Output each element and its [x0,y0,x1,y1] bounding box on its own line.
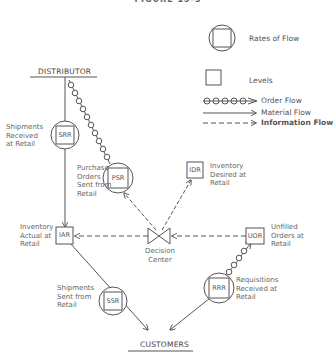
psr-label: PurchaseOrdersSent fromRetail [77,164,111,198]
uor-code: UOR [246,232,264,240]
order-chain-psr-distributor [68,80,110,164]
idr-code: IDR [187,166,203,174]
legend-levels-label: Levels [249,76,273,85]
idr-label: InventoryDesired atRetail [210,162,246,188]
figure-title: FIGURE 15-3 [128,0,208,4]
distributor-label: DISTRIBUTOR [38,67,91,76]
decision-center-label: DecisionCenter [145,247,175,264]
order-chain-rrr-uor [226,242,251,276]
ssr-code: SSR [104,297,122,305]
rrr-code: RRR [209,284,229,292]
ssr-label: ShipmentsSent fromRetail [57,284,94,310]
customers-label: CUSTOMERS [140,340,189,349]
legend-level-icon [206,70,221,85]
decision-center-icon [148,228,170,244]
rrr-label: RequisitionsReceived atRetail [236,276,278,302]
srr-code: SRR [56,131,74,139]
iar-code: IAR [56,231,73,239]
uor-label: UnfilledOrders atRetail [271,223,304,249]
legend-order-flow-label: Order Flow [261,96,302,105]
legend-order-flow-icon [203,98,257,104]
legend-rates-label: Rates of Flow [249,34,299,43]
legend-material-flow-label: Material Flow [261,108,311,117]
srr-label: ShipmentsReceivedat Retail [6,123,43,149]
legend-information-flow-label: Information Flow [261,118,333,127]
iar-label: InventoryActual atRetail [20,223,53,249]
